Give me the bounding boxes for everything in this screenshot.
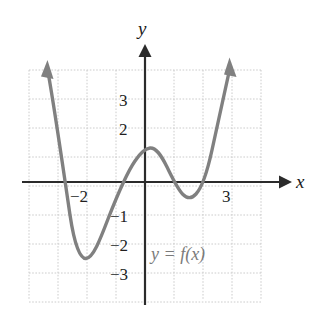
y-tick-label-neg1: −1: [110, 208, 128, 225]
function-label: y = f(x): [151, 245, 205, 263]
function-curve: [41, 58, 237, 259]
graph-canvas: [0, 0, 316, 322]
y-tick-label-neg3: −3: [110, 266, 128, 283]
y-tick-label-3: 3: [119, 92, 128, 109]
x-axis-label: x: [296, 172, 304, 191]
x-axis: [22, 176, 292, 189]
graph-figure: 3 2 −1 −2 −3 −2 3 y x y = f(x): [0, 0, 316, 322]
x-tick-label-3: 3: [222, 188, 231, 205]
y-axis: [139, 44, 152, 305]
y-tick-label-2: 2: [119, 121, 128, 138]
y-axis-label: y: [138, 19, 146, 38]
x-tick-label-neg2: −2: [70, 188, 88, 205]
y-tick-label-neg2: −2: [110, 237, 128, 254]
